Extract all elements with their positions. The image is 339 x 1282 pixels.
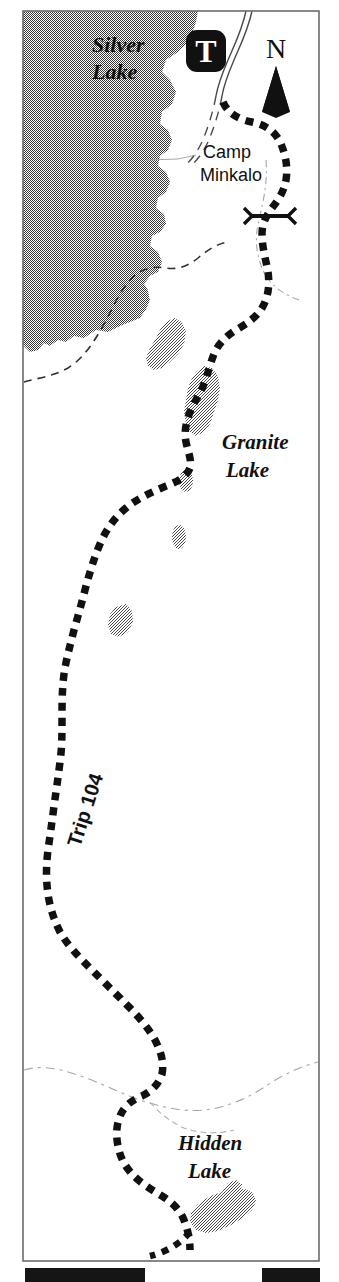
label-camp-minkalo-line1: Camp bbox=[203, 142, 251, 162]
label-camp-minkalo-line2: Minkalo bbox=[200, 165, 262, 185]
north-arrow-letter: N bbox=[266, 33, 286, 64]
trailhead-marker-letter: T bbox=[195, 33, 216, 69]
label-granite-lake-line2: Lake bbox=[225, 458, 269, 482]
label-silver-lake-line1: Silver bbox=[92, 32, 145, 57]
trailhead-marker[interactable]: T bbox=[186, 30, 226, 72]
label-silver-lake-line2: Lake bbox=[91, 59, 137, 84]
water-pond-3 bbox=[172, 525, 186, 549]
map-canvas: T N Silver Lake Camp Minkalo Granite Lak… bbox=[0, 0, 339, 1282]
scale-bar-segment-2 bbox=[145, 1268, 262, 1282]
scale-bar-segment-1 bbox=[25, 1268, 145, 1282]
label-granite-lake-line1: Granite bbox=[222, 430, 289, 454]
label-hidden-lake-line1: Hidden bbox=[177, 1131, 242, 1155]
trail-map: T N Silver Lake Camp Minkalo Granite Lak… bbox=[0, 0, 339, 1282]
scale-bar bbox=[25, 1268, 320, 1282]
label-hidden-lake-line2: Lake bbox=[187, 1159, 231, 1183]
scale-bar-segment-3 bbox=[262, 1268, 320, 1282]
